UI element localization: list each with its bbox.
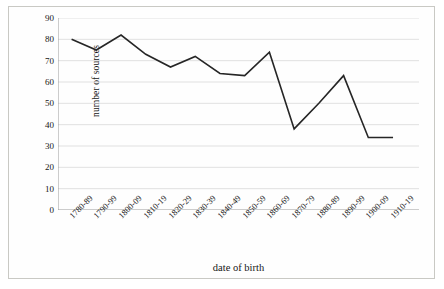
gridlines — [58, 18, 419, 189]
y-tick-label: 20 — [45, 163, 54, 172]
x-axis-tick-labels: 1780-891790-991800-091810-191820-291830-… — [58, 214, 419, 264]
x-axis-title: date of birth — [58, 262, 419, 273]
data-series-line — [72, 35, 393, 137]
y-tick-label: 10 — [45, 184, 54, 193]
y-tick-label: 90 — [45, 14, 54, 23]
axis-lines — [58, 18, 419, 210]
plot-area: number of sources 9080706050403020100 — [58, 18, 419, 210]
y-tick-label: 60 — [45, 78, 54, 87]
y-tick-label: 80 — [45, 35, 54, 44]
y-tick-label: 40 — [45, 120, 54, 129]
y-tick-label: 70 — [45, 56, 54, 65]
y-tick-label: 0 — [50, 206, 55, 215]
y-tick-label: 50 — [45, 99, 54, 108]
chart-figure: number of sources 9080706050403020100 17… — [0, 0, 444, 289]
y-tick-label: 30 — [45, 142, 54, 151]
line-chart-svg — [58, 18, 419, 210]
